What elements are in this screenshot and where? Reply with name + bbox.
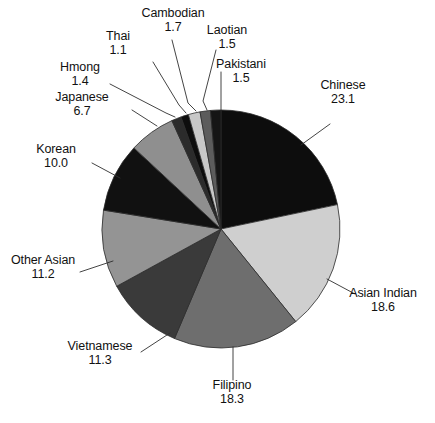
callout-label-vietnamese: Vietnamese [61, 339, 139, 353]
callout-label-cambodian: Cambodian [133, 6, 213, 20]
callout-other-asian: Other Asian 11.2 [5, 253, 81, 281]
figure-footnote [0, 411, 435, 422]
callout-label-filipino: Filipino [199, 378, 265, 392]
callout-label-pakistani: Pakistani [205, 57, 277, 71]
leader-line-japanese [132, 110, 157, 126]
callout-value-vietnamese: 11.3 [61, 353, 139, 367]
callout-label-chinese: Chinese [310, 78, 376, 92]
callout-value-chinese: 23.1 [310, 92, 376, 106]
callout-filipino: Filipino 18.3 [199, 378, 265, 406]
callout-asian-indian: Asian Indian 18.6 [339, 286, 427, 314]
leader-line-vietnamese [141, 333, 170, 352]
callout-pakistani: Pakistani 1.5 [205, 57, 277, 85]
callout-vietnamese: Vietnamese 11.3 [61, 339, 139, 367]
callout-label-hmong: Hmong [49, 60, 111, 74]
pie-chart-figure: Cambodian 1.7 Thai 1.1 Laotian 1.5 Pakis… [0, 0, 435, 423]
callout-label-asian-indian: Asian Indian [339, 286, 427, 300]
leader-line-cambodian [172, 40, 196, 111]
callout-hmong: Hmong 1.4 [49, 60, 111, 88]
pie-slices-group [102, 110, 340, 348]
leader-line-thai [153, 62, 186, 113]
callout-value-asian-indian: 18.6 [339, 300, 427, 314]
callout-label-korean: Korean [23, 142, 89, 156]
callout-japanese: Japanese 6.7 [44, 90, 120, 118]
callout-value-other-asian: 11.2 [5, 267, 81, 281]
callout-value-filipino: 18.3 [199, 392, 265, 406]
callout-value-japanese: 6.7 [44, 104, 120, 118]
leader-line-chinese [301, 124, 330, 145]
callout-thai: Thai 1.1 [94, 29, 142, 57]
callout-laotian: Laotian 1.5 [196, 23, 258, 51]
callout-label-thai: Thai [94, 29, 142, 43]
callout-label-laotian: Laotian [196, 23, 258, 37]
callout-chinese: Chinese 23.1 [310, 78, 376, 106]
callout-value-thai: 1.1 [94, 43, 142, 57]
callout-label-japanese: Japanese [44, 90, 120, 104]
callout-value-laotian: 1.5 [196, 37, 258, 51]
callout-korean: Korean 10.0 [23, 142, 89, 170]
callout-label-other-asian: Other Asian [5, 253, 81, 267]
callout-value-korean: 10.0 [23, 156, 89, 170]
callout-value-pakistani: 1.5 [205, 71, 277, 85]
callout-value-hmong: 1.4 [49, 74, 111, 88]
leader-line-korean [92, 163, 120, 178]
